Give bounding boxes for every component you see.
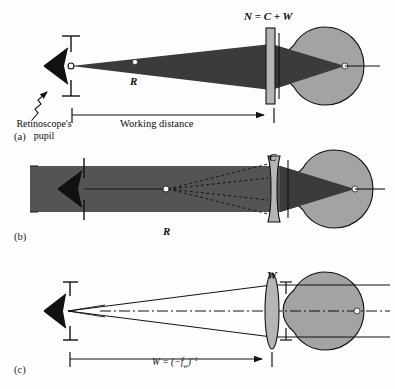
far-point-R-b — [163, 186, 169, 192]
retinoscope-pupil-a — [68, 63, 74, 69]
retinoscopy-figure: N = C + W R Retinoscope's pupil Working … — [0, 0, 395, 389]
W-formula-exponent: −1 — [191, 355, 198, 362]
label-lens-W: W — [267, 270, 277, 282]
label-W-formula: W = (−fw)−1 — [152, 356, 198, 370]
caption-pointer-a — [32, 92, 47, 120]
retinoscope-caption-line2: pupil — [34, 130, 55, 141]
retinal-point-c — [354, 308, 360, 314]
panel-letter-c: (c) — [14, 364, 26, 375]
panel-letter-b: (b) — [14, 231, 26, 242]
panel-letter-a: (a) — [14, 131, 26, 142]
label-lens-N: N = C + W — [244, 11, 292, 23]
panel-b-graphic — [0, 148, 395, 260]
far-point-R-a — [132, 59, 137, 64]
panel-c-graphic — [0, 268, 395, 389]
label-far-point-R-a: R — [130, 76, 137, 88]
label-far-point-R-b: R — [163, 226, 170, 238]
label-working-distance: Working distance — [120, 118, 194, 129]
W-formula-prefix: W = (−f — [152, 357, 183, 367]
retinoscope-c — [44, 282, 78, 340]
lens-W-c — [265, 273, 279, 349]
label-lens-C: C — [269, 152, 276, 164]
retinoscope-caption-line1: Retinoscope's — [16, 118, 71, 129]
